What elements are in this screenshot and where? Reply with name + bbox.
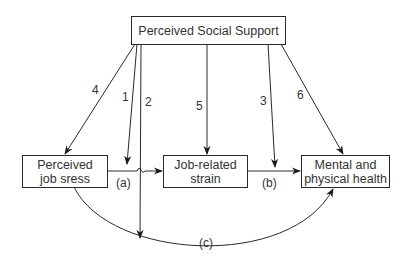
edge-label-5: 5 [196,100,203,112]
edge-label-a: (a) [116,177,131,189]
edge-6-arrow [281,44,343,154]
mediation-diagram: Perceived Social Support Perceived job s… [0,0,411,265]
edge-3-arrow [268,44,275,167]
edge-label-3: 3 [260,95,267,107]
edge-label-2: 2 [145,96,152,108]
edge-1-arrow [127,44,137,164]
edge-label-4: 4 [92,84,99,96]
node-perceived-job-stress: Perceived job sress [22,155,108,188]
edge-label-1: 1 [122,91,129,103]
edge-a-arrow [108,168,162,172]
edge-label-6: 6 [297,89,304,101]
edge-label-c: (c) [199,237,213,249]
node-perceived-social-support: Perceived Social Support [131,16,286,45]
edge-label-b: (b) [262,177,277,189]
node-job-related-strain: Job-related strain [163,155,248,188]
edge-2-arrow [140,44,141,238]
node-mental-physical-health: Mental and physical health [301,155,390,188]
